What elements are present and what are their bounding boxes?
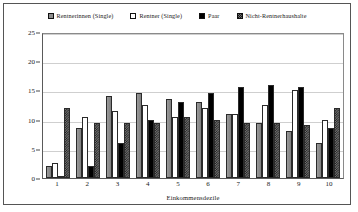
plot-area bbox=[42, 33, 344, 179]
y-axis-tick-label: 10 bbox=[28, 117, 35, 125]
x-axis-tick-label: 8 bbox=[253, 180, 283, 188]
x-axis-tick-label: 5 bbox=[163, 180, 193, 188]
y-axis-tick-mark bbox=[36, 62, 40, 63]
x-axis-tick-label: 1 bbox=[42, 180, 72, 188]
bar bbox=[124, 123, 130, 178]
bar-group bbox=[43, 34, 73, 178]
y-axis-tick-label: 0 bbox=[32, 175, 36, 183]
x-axis-tick-label: 7 bbox=[223, 180, 253, 188]
legend-swatch-black-icon bbox=[199, 13, 205, 19]
y-axis-tick-mark bbox=[36, 120, 40, 121]
bar bbox=[94, 123, 100, 178]
y-axis-tick-label: 25 bbox=[28, 29, 35, 37]
legend-swatch-white-icon bbox=[130, 13, 136, 19]
y-axis-tick-mark bbox=[36, 179, 40, 180]
bar-groups bbox=[43, 34, 343, 178]
legend-label: Nicht-Rentnerhaushalte bbox=[246, 12, 307, 19]
y-axis-tick-label: 15 bbox=[28, 87, 35, 95]
legend-swatch-checker-icon bbox=[237, 13, 243, 19]
bar-group bbox=[163, 34, 193, 178]
y-axis-tick-mark bbox=[36, 91, 40, 92]
bar bbox=[334, 108, 340, 178]
bar-group bbox=[133, 34, 163, 178]
bar bbox=[304, 125, 310, 178]
bar bbox=[154, 123, 160, 178]
legend-swatch-gray-icon bbox=[48, 13, 54, 19]
x-axis-tick-label: 9 bbox=[284, 180, 314, 188]
bar-group bbox=[103, 34, 133, 178]
x-axis-tick-label: 10 bbox=[314, 180, 344, 188]
bar-group bbox=[253, 34, 283, 178]
bar-group bbox=[283, 34, 313, 178]
x-axis-tick-label: 3 bbox=[102, 180, 132, 188]
chart-legend: Rentnerinnen (Single) Rentner (Single) P… bbox=[4, 12, 350, 19]
x-axis-tick-label: 2 bbox=[72, 180, 102, 188]
legend-item-rentner-single: Rentner (Single) bbox=[130, 12, 182, 19]
legend-label: Paar bbox=[208, 12, 219, 19]
legend-label: Rentnerinnen (Single) bbox=[57, 12, 114, 19]
bar-group bbox=[313, 34, 343, 178]
x-axis-tick-label: 6 bbox=[193, 180, 223, 188]
x-axis-ticks: 12345678910 bbox=[42, 180, 344, 188]
legend-label: Rentner (Single) bbox=[139, 12, 182, 19]
bar bbox=[214, 120, 220, 178]
legend-item-rentnerinnen-single: Rentnerinnen (Single) bbox=[48, 12, 114, 19]
chart-frame: Rentnerinnen (Single) Rentner (Single) P… bbox=[3, 3, 351, 205]
legend-item-nicht-rentnerhaushalte: Nicht-Rentnerhaushalte bbox=[237, 12, 307, 19]
bar bbox=[244, 123, 250, 178]
x-axis-tick-label: 4 bbox=[133, 180, 163, 188]
bar bbox=[274, 123, 280, 178]
bar bbox=[64, 108, 70, 178]
legend-item-paar: Paar bbox=[199, 12, 219, 19]
y-axis-tick-mark bbox=[36, 149, 40, 150]
y-axis-tick-label: 5 bbox=[32, 146, 36, 154]
bar-group bbox=[223, 34, 253, 178]
y-axis: 0510152025 bbox=[4, 33, 40, 179]
bar-group bbox=[73, 34, 103, 178]
bar bbox=[184, 117, 190, 178]
x-axis-title: Einkommensdezile bbox=[42, 194, 344, 201]
y-axis-tick-mark bbox=[36, 33, 40, 34]
y-axis-tick-label: 20 bbox=[28, 58, 35, 66]
bar-group bbox=[193, 34, 223, 178]
